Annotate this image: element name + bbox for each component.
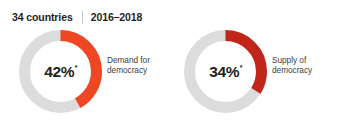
header-divider — [82, 11, 83, 24]
donut-label-supply-line1: Supply of — [272, 55, 337, 65]
header-countries-label: 34 countries — [12, 11, 73, 23]
donut-svg-supply — [184, 30, 267, 113]
header: 34 countries 2016–2018 — [12, 10, 142, 24]
donut-label-demand-line1: Demand for — [107, 55, 173, 65]
donut-label-supply: Supply of democracy — [272, 55, 337, 76]
donut-chart-supply — [184, 30, 267, 113]
donut-label-demand-line2: democracy — [107, 65, 173, 75]
donut-label-supply-line2: democracy — [272, 65, 337, 75]
donut-label-demand: Demand for democracy — [107, 55, 173, 76]
donut-chart-demand — [19, 30, 102, 113]
donut-svg-demand — [19, 30, 102, 113]
infographic-root: 34 countries 2016–2018 42%* Demand for d… — [0, 0, 337, 127]
header-years-label: 2016–2018 — [91, 11, 143, 23]
